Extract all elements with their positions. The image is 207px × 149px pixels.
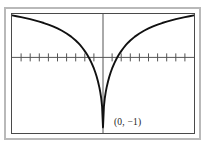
figure-container: (0, −1): [0, 0, 207, 149]
plot-area-frame: [11, 13, 195, 134]
minimum-point-label: (0, −1): [114, 118, 141, 128]
plot-svg: [12, 14, 194, 133]
